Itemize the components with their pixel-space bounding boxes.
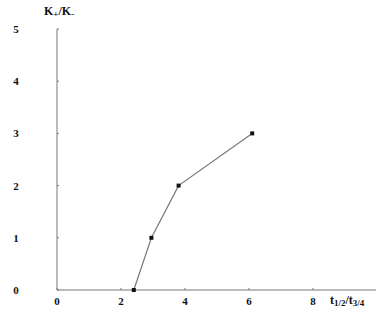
x-tick-label: 0: [54, 295, 60, 307]
y-tick-label: 5: [13, 23, 19, 35]
x-ticks: 02468: [54, 288, 316, 307]
x-tick-label: 2: [118, 295, 124, 307]
x-tick-label: 4: [182, 295, 188, 307]
y-tick-label: 1: [13, 232, 19, 244]
series-markers: [132, 131, 254, 292]
data-point-marker: [177, 184, 181, 188]
y-tick-label: 4: [13, 75, 19, 87]
x-axis-title: t1/2/t3/4: [330, 293, 365, 308]
y-tick-label: 3: [13, 127, 19, 139]
data-point-marker: [132, 288, 136, 292]
chart: 02468 012345 K+/K- t1/2/t3/4: [0, 0, 388, 318]
y-tick-label: 2: [13, 180, 19, 192]
data-point-marker: [149, 236, 153, 240]
data-point-marker: [250, 131, 254, 135]
series-line: [134, 133, 252, 290]
y-ticks: 012345: [13, 23, 59, 296]
y-tick-label: 0: [13, 284, 19, 296]
y-axis-title: K+/K-: [44, 4, 74, 19]
x-tick-label: 8: [310, 295, 316, 307]
x-tick-label: 6: [246, 295, 252, 307]
